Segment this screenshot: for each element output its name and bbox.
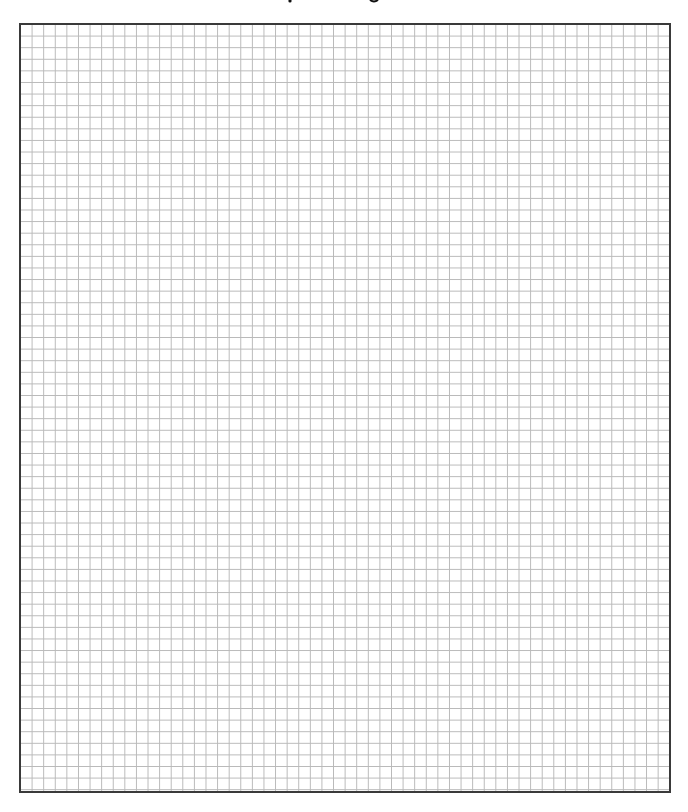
graph-paper-grid <box>19 23 671 793</box>
page-title-clipped <box>0 0 688 8</box>
title-descender-fragments <box>0 0 688 8</box>
